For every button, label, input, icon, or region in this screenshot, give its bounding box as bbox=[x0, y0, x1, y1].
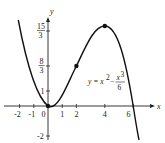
x-tick-label: 1 bbox=[60, 110, 64, 119]
function-curve bbox=[18, 20, 139, 140]
svg-text:3: 3 bbox=[39, 31, 43, 40]
point-local-max bbox=[103, 24, 107, 28]
y-tick-labels: 15 3 8 3 1 -2 bbox=[37, 22, 45, 141]
svg-text:y = x: y = x bbox=[87, 77, 104, 86]
x-tick-label: 0 bbox=[42, 110, 46, 119]
function-plot: x y -2 -1 0 1 2 4 6 15 3 8 bbox=[0, 0, 165, 143]
y-tick-label-8-3: 8 3 bbox=[39, 57, 45, 75]
x-tick-label: 2 bbox=[74, 110, 78, 119]
svg-text:6: 6 bbox=[118, 83, 122, 92]
x-axis-arrow-icon bbox=[150, 104, 155, 108]
x-tick-label: -2 bbox=[14, 110, 21, 119]
y-tick-label-15-3: 15 3 bbox=[37, 22, 45, 40]
point-local-min bbox=[46, 104, 50, 108]
x-tick-label: -1 bbox=[29, 110, 36, 119]
y-axis-label: y bbox=[49, 7, 54, 16]
x-tick-label: 4 bbox=[103, 110, 107, 119]
svg-text:3: 3 bbox=[40, 66, 44, 75]
svg-text:−: − bbox=[110, 77, 114, 86]
y-tick-label-1: 1 bbox=[41, 87, 45, 96]
svg-text:8: 8 bbox=[40, 57, 44, 66]
y-tick-label-neg2: -2 bbox=[37, 132, 44, 141]
equation-label: y = x 2 − x 3 6 bbox=[87, 70, 125, 92]
y-axis-arrow-icon bbox=[46, 17, 50, 22]
svg-text:3: 3 bbox=[121, 70, 125, 79]
x-axis-label: x bbox=[156, 102, 161, 111]
x-tick-label: 6 bbox=[127, 110, 131, 119]
svg-text:15: 15 bbox=[37, 22, 45, 31]
x-tick-labels: -2 -1 0 1 2 4 6 bbox=[14, 110, 131, 119]
point-inflection bbox=[74, 64, 78, 68]
